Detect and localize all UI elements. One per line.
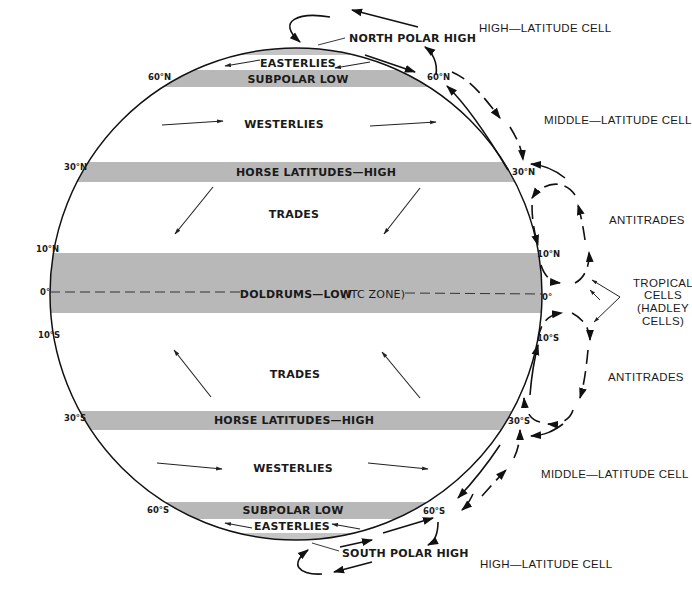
label-south-horse-latitudes: HORSE LATITUDES—HIGH [214, 414, 374, 427]
lat-right-60s: 60°S [423, 506, 445, 516]
tropical-pointer-north-stem [592, 280, 620, 297]
north-polar-aloft [352, 10, 418, 27]
south-polar-rise [428, 522, 438, 545]
label-north-trades: TRADES [269, 208, 319, 221]
north-polar-cell-loop [290, 16, 330, 42]
lat-right-10s: 10°S [537, 333, 559, 343]
north-midlat-aloft [452, 72, 500, 118]
lat-left-10s: 10°S [38, 330, 60, 340]
label-north-high-latitude-cell: HIGH—LATITUDE CELL [479, 22, 612, 34]
arrow-south-easterlies-left [225, 523, 252, 528]
label-south-polar-high: SOUTH POLAR HIGH [342, 547, 469, 560]
lat-right-60n: 60°N [427, 72, 450, 82]
global-circulation-diagram: EASTERLIES SUBPOLAR LOW WESTERLIES HORSE… [0, 0, 692, 591]
south-hadley-surface [530, 345, 538, 395]
label-south-easterlies: EASTERLIES [254, 520, 330, 533]
arrow-south-westerlies-right [368, 463, 428, 469]
south-polar-cell-loop [298, 550, 322, 574]
arrow-north-westerlies-left [162, 121, 223, 125]
north-hadley-rise [575, 252, 589, 283]
lat-right-30n: 30°N [512, 167, 535, 177]
arrow-south-easterlies-right [332, 524, 360, 529]
label-north-polar-high: NORTH POLAR HIGH [349, 32, 476, 45]
label-north-antitrades: ANTITRADES [609, 214, 685, 226]
label-south-high-latitude-cell: HIGH—LATITUDE CELL [480, 558, 613, 570]
label-south-middle-latitude-cell: MIDDLE—LATITUDE CELL [541, 468, 689, 480]
south-hadley-down [580, 350, 588, 398]
south-midlat-return [531, 424, 563, 436]
north-hadley-up [578, 205, 585, 240]
arrow-south-trades-left [174, 350, 211, 397]
label-north-subpolar-low: SUBPOLAR LOW [248, 73, 349, 86]
lat-right-10n: 10°N [537, 249, 560, 259]
label-tropical-line1: TROPICAL [633, 277, 692, 289]
label-north-westerlies: WESTERLIES [244, 118, 324, 131]
north-midlat-return [531, 164, 565, 178]
south-polar-surface2 [340, 540, 372, 547]
south-polar-equatorward [462, 494, 473, 510]
north-hadley-top [532, 184, 575, 198]
south-polar-surface [383, 518, 433, 533]
south-hadley-top [572, 313, 590, 340]
lat-left-60n: 60°N [148, 72, 171, 82]
label-tropical-line3: (HADLEY [637, 302, 689, 314]
arrow-north-easterlies-left [225, 60, 260, 66]
lat-left-eq: 0° [40, 287, 50, 297]
arrow-north-trades-left [175, 187, 213, 234]
south-midlat-surface [458, 445, 500, 498]
label-south-trades: TRADES [270, 368, 320, 381]
north-midlat-descent [510, 127, 523, 160]
tropical-pointer-north [590, 290, 600, 300]
tropical-pointer-south-stem [594, 297, 620, 322]
south-polar-aloft [334, 562, 372, 572]
arrow-north-easterlies-right [335, 62, 370, 68]
label-doldrums: DOLDRUMS—LOW [240, 288, 352, 301]
arrow-south-westerlies-left [157, 463, 222, 469]
label-north-middle-latitude-cell: MIDDLE—LATITUDE CELL [544, 114, 692, 126]
south-midlat-rise [514, 430, 520, 458]
label-tropical-line4: CELLS) [642, 315, 684, 327]
arrow-north-westerlies-right [370, 122, 436, 126]
lat-right-eq: 0° [542, 292, 552, 302]
arrow-south-trades-right [382, 352, 420, 398]
south-polar-high-leader [312, 543, 339, 551]
arrow-north-trades-right [384, 188, 420, 234]
north-polar-rise [425, 47, 436, 75]
south-hadley-bottom [548, 410, 573, 424]
label-tropical-line2: CELLS [644, 289, 682, 301]
lat-left-10n: 10°N [36, 244, 59, 254]
lat-right-30s: 30°S [508, 416, 530, 426]
lat-left-30n: 30°N [64, 162, 87, 172]
label-south-westerlies: WESTERLIES [253, 462, 333, 475]
north-hadley-surface [541, 265, 560, 283]
label-south-subpolar-low: SUBPOLAR LOW [243, 504, 344, 517]
label-north-horse-latitudes: HORSE LATITUDES—HIGH [236, 166, 396, 179]
lat-left-30s: 30°S [64, 413, 86, 423]
north-polar-high-leader [318, 38, 345, 45]
label-itcz: (ITC ZONE) [343, 288, 405, 301]
label-north-easterlies: EASTERLIES [260, 57, 336, 70]
north-polar-surface [365, 55, 415, 72]
band-south-subpolar-low [0, 502, 692, 519]
south-midlat-aloft [482, 470, 506, 496]
lat-left-60s: 60°S [147, 505, 169, 515]
label-south-antitrades: ANTITRADES [608, 371, 684, 383]
